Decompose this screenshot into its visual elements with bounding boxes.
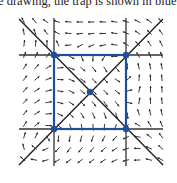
arrowhead-icon — [161, 75, 163, 77]
equilibrium-point — [123, 52, 129, 58]
arrowhead-icon — [88, 33, 90, 35]
arrowhead-icon — [149, 98, 151, 100]
arrowhead-icon — [161, 98, 163, 100]
equilibrium-point — [87, 89, 93, 95]
arrowhead-icon — [50, 113, 52, 115]
arrowhead-icon — [149, 75, 151, 77]
arrowhead-icon — [138, 75, 140, 77]
phase-portrait-diagram — [0, 0, 177, 183]
arrowhead-icon — [100, 21, 102, 23]
equilibrium-point — [51, 52, 57, 58]
arrowhead-icon — [62, 79, 64, 81]
arrowhead-icon — [77, 33, 79, 35]
arrowhead-icon — [57, 140, 59, 142]
arrowhead-icon — [61, 67, 63, 69]
arrowhead-icon — [65, 44, 67, 46]
arrowhead-icon — [88, 21, 90, 23]
arrowhead-icon — [77, 21, 79, 23]
arrowhead-icon — [100, 32, 102, 34]
equilibrium-point — [51, 126, 57, 132]
arrowhead-icon — [134, 147, 136, 149]
arrowhead-icon — [149, 86, 151, 88]
arrowhead-icon — [134, 159, 136, 161]
equilibrium-point — [123, 126, 129, 132]
arrowhead-icon — [35, 40, 37, 42]
arrowhead-icon — [46, 40, 48, 42]
arrowhead-icon — [50, 125, 52, 127]
arrowhead-icon — [92, 60, 94, 62]
arrowhead-icon — [65, 32, 67, 34]
arrowhead-icon — [161, 86, 163, 88]
